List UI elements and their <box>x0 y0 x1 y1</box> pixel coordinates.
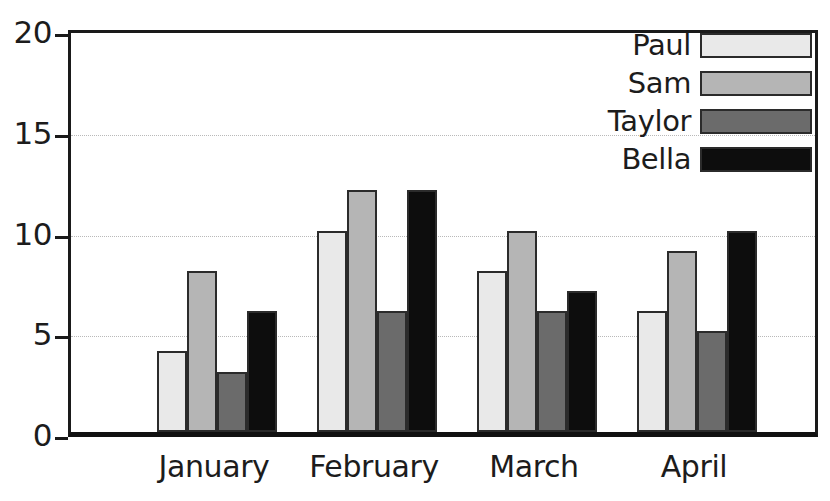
y-tick-mark-15 <box>55 135 68 138</box>
y-tick-mark-0 <box>55 437 68 440</box>
legend-label-taylor: Taylor <box>608 107 691 136</box>
bar-january-paul <box>157 351 187 432</box>
bar-january-bella <box>247 311 277 432</box>
x-axis-label-april: April <box>584 452 804 482</box>
bar-february-taylor <box>377 311 407 432</box>
legend-item-taylor[interactable]: Taylor <box>590 104 812 138</box>
bar-february-bella <box>407 190 437 432</box>
legend-label-bella: Bella <box>621 145 691 174</box>
bar-april-taylor <box>697 331 727 432</box>
bar-april-bella <box>727 231 757 433</box>
legend-item-paul[interactable]: Paul <box>590 28 812 62</box>
legend-swatch-taylor <box>700 109 812 134</box>
y-tick-mark-20 <box>55 34 68 37</box>
legend-swatch-paul <box>700 33 812 58</box>
bar-february-sam <box>347 190 377 432</box>
bar-march-paul <box>477 271 507 432</box>
y-tick-label-0: 0 <box>0 420 52 451</box>
bar-chart: 20151050 JanuaryFebruaryMarchApril PaulS… <box>0 0 830 501</box>
bar-april-paul <box>637 311 667 432</box>
y-tick-mark-5 <box>55 336 68 339</box>
y-tick-label-20: 20 <box>0 17 52 48</box>
y-tick-label-10: 10 <box>0 219 52 250</box>
bar-march-bella <box>567 291 597 432</box>
bar-march-sam <box>507 231 537 433</box>
bar-january-sam <box>187 271 217 432</box>
legend-label-sam: Sam <box>628 69 691 98</box>
y-tick-label-5: 5 <box>0 319 52 350</box>
bar-march-taylor <box>537 311 567 432</box>
chart-legend: PaulSamTaylorBella <box>590 28 812 180</box>
bar-april-sam <box>667 251 697 432</box>
legend-swatch-sam <box>700 71 812 96</box>
legend-swatch-bella <box>700 147 812 172</box>
legend-item-sam[interactable]: Sam <box>590 66 812 100</box>
y-tick-label-15: 15 <box>0 118 52 149</box>
y-tick-mark-10 <box>55 236 68 239</box>
bar-february-paul <box>317 231 347 433</box>
legend-item-bella[interactable]: Bella <box>590 142 812 176</box>
bar-january-taylor <box>217 372 247 432</box>
legend-label-paul: Paul <box>632 31 691 60</box>
